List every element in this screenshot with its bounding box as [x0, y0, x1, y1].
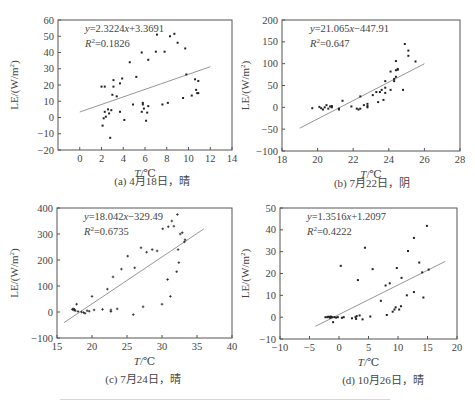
x-tick-label: 0 — [336, 342, 341, 353]
y-tick-label: 0 — [271, 312, 276, 323]
x-tick-label: −5 — [304, 342, 315, 353]
r-squared: R2=0.4222 — [306, 225, 352, 237]
x-tick-label: 20 — [452, 342, 463, 353]
x-tick-label: −10 — [272, 342, 288, 353]
data-points — [324, 225, 429, 323]
x-tick-label: 15 — [422, 342, 433, 353]
y-tick-label: 30 — [266, 246, 277, 257]
x-axis-label: T/℃ — [358, 356, 380, 368]
y-tick-label: 50 — [266, 203, 277, 214]
y-tick-label: 20 — [266, 268, 277, 279]
panel-caption: (d) 10月26日，晴 — [342, 374, 424, 387]
y-tick-label: 10 — [266, 290, 277, 301]
x-tick-label: 10 — [393, 342, 404, 353]
figure-2x2-scatter-grid: −20−10010203040506002468101214y=2.3224x+… — [0, 0, 475, 402]
chart-svg-d: −1001020304050−10−505101520y=1.3516x+1.2… — [0, 0, 475, 402]
x-tick-label: 5 — [366, 342, 371, 353]
y-tick-label: 40 — [266, 224, 277, 235]
y-axis-label: LE/(W/m2) — [239, 249, 252, 299]
regression-equation: y=1.3516x+1.2097 — [306, 211, 386, 222]
bottom-divider — [60, 399, 390, 400]
